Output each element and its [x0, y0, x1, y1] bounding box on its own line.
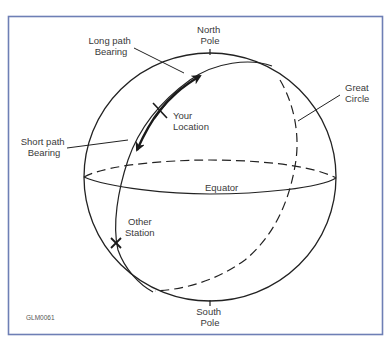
other-station-label: Other Station — [125, 216, 155, 238]
figure-frame — [9, 17, 383, 335]
great-circle-label: Great Circle — [345, 82, 371, 104]
equator-label: Equator — [205, 182, 238, 193]
short-path-label: Short path Bearing — [21, 136, 67, 158]
north-pole-label: North Pole — [197, 24, 223, 46]
great-circle-diagram: North Pole South Pole Long path Bearing … — [0, 0, 391, 339]
figure-id-label: GLM0061 — [26, 314, 55, 321]
long-path-label: Long path Bearing — [89, 35, 134, 57]
